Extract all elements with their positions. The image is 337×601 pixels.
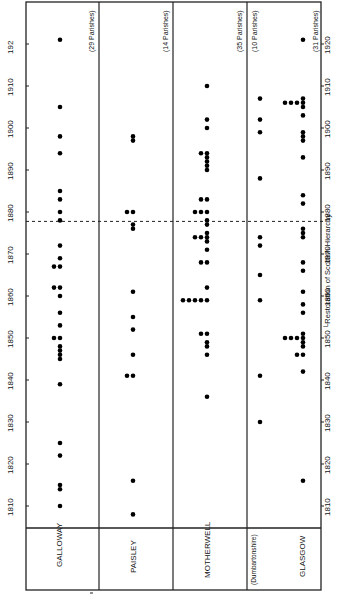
tick-label-left: 1840 [6,372,15,390]
tick-label-left: 1900 [6,120,15,138]
data-point [58,294,63,299]
data-point [199,210,204,215]
data-point [258,243,263,248]
data-point [52,264,57,269]
data-point [205,298,210,303]
data-point [205,218,210,223]
tick-label-right: 1820 [323,456,332,474]
data-point [58,134,63,139]
data-point [301,105,306,110]
data-point [52,336,57,341]
data-point [58,348,63,353]
data-point [131,315,136,320]
data-point [205,168,210,173]
data-point [301,193,306,198]
data-point [295,101,300,106]
parish-count-note: (14 Parishes) [162,10,169,52]
data-point [205,395,210,400]
tick-label-right: 1890 [323,162,332,180]
data-point [295,353,300,358]
data-point [258,235,263,240]
parish-count-note: (31 Parishes) [312,10,319,52]
data-point [58,218,63,223]
data-point [301,479,306,484]
data-point [131,222,136,227]
data-point [187,298,192,303]
data-point [131,512,136,517]
data-point [58,382,63,387]
data-point [205,84,210,89]
data-point [205,344,210,349]
data-point [301,344,306,349]
data-point [258,420,263,425]
data-point [301,101,306,106]
data-point [58,151,63,156]
data-point [58,38,63,43]
data-point [58,353,63,358]
data-point [283,336,288,341]
data-point [131,134,136,139]
data-point [301,113,306,118]
data-point [301,231,306,236]
data-point [301,340,306,345]
data-point [58,189,63,194]
data-point [205,260,210,265]
data-point [58,256,63,261]
data-point [52,285,57,290]
data-point [131,138,136,143]
data-point [258,273,263,278]
data-point [131,327,136,332]
data-point [205,340,210,345]
data-point [131,227,136,232]
data-point [301,336,306,341]
data-point [193,298,198,303]
data-point [58,336,63,341]
data-point [301,134,306,139]
tick-label-left: 1830 [6,414,15,432]
data-point [181,298,186,303]
tick-label-left: 1810 [6,498,15,516]
data-point [58,311,63,316]
tick-label-left: 1890 [6,162,15,180]
data-point [205,353,210,358]
data-point [283,101,288,106]
column-label: PAISLEY [129,540,138,573]
restoration-annotation: └Restoration of Scottish Hierarchy [323,214,332,329]
data-point [301,235,306,240]
data-point [58,504,63,509]
data-point [258,298,263,303]
data-point [131,353,136,358]
data-point [289,336,294,341]
data-point [58,264,63,269]
data-point [205,210,210,215]
column-label: (Dumbartonshire) [250,534,257,585]
parish-count-note: (10 Parishes) [251,10,258,52]
tick-label-left: 1910 [6,78,15,96]
data-point [193,210,198,215]
data-point [258,130,263,135]
tick-label-right: 1850 [323,330,332,348]
data-point [205,231,210,236]
data-point [131,210,136,215]
data-point [258,117,263,122]
data-point [205,332,210,337]
data-point [301,290,306,295]
data-point [58,487,63,492]
data-point [125,374,130,379]
data-point [258,176,263,181]
tick-label-right: 1810 [323,498,332,516]
data-point [205,235,210,240]
data-point [301,201,306,206]
data-point [58,323,63,328]
data-point [199,235,204,240]
data-point [205,164,210,169]
data-point [301,353,306,358]
data-point [58,243,63,248]
data-point [58,483,63,488]
data-point [301,269,306,274]
data-point [301,130,306,135]
column-label: MOTHERWELL [203,522,212,578]
data-point [199,298,204,303]
data-point [58,197,63,202]
tick-label-right: 1840 [323,372,332,390]
